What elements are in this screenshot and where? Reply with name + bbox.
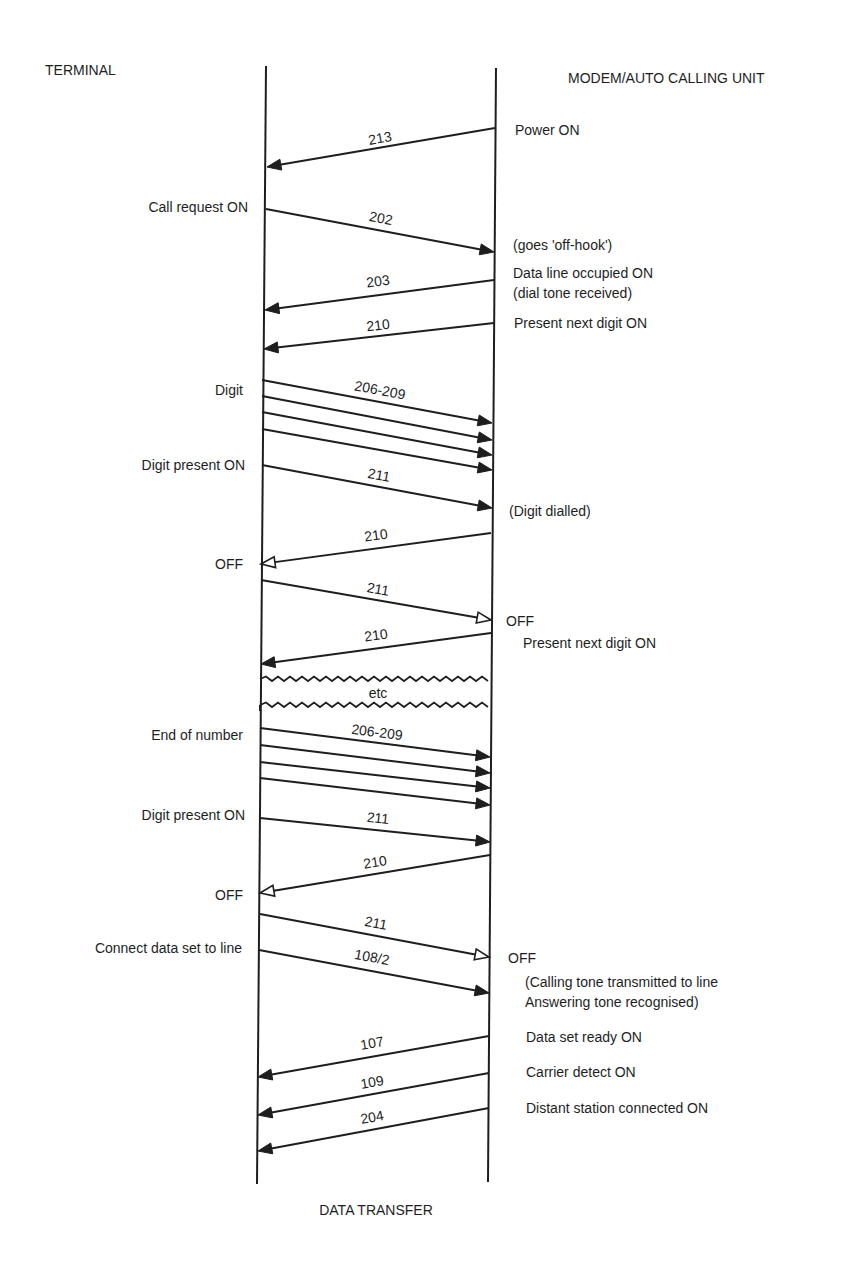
filled-arrowhead-icon [477, 415, 492, 426]
modem-event-label: OFF [506, 614, 534, 628]
terminal-event-label: Digit present ON [142, 808, 245, 822]
filled-arrowhead-icon [477, 432, 492, 443]
lifelines [257, 66, 496, 1184]
filled-arrowhead-icon [475, 750, 490, 761]
filled-arrowhead-icon [261, 657, 276, 668]
terminal-event-label: Digit present ON [142, 458, 245, 472]
modem-event-label: (dial tone received) [513, 286, 632, 300]
terminal-event-label: Connect data set to line [95, 941, 242, 955]
circuit-label: 211 [367, 466, 392, 484]
modem-event-label: Answering tone recognised) [525, 995, 699, 1009]
filled-arrowhead-icon [258, 1069, 273, 1080]
circuit-label: 213 [367, 129, 392, 147]
circuit-label: 202 [368, 209, 394, 227]
break-line-top [260, 677, 488, 682]
data-transfer-footer: DATA TRANSFER [319, 1203, 433, 1217]
terminal-event-label: OFF [215, 888, 243, 902]
filled-arrowhead-icon [477, 500, 492, 511]
modem-event-label: Present next digit ON [514, 316, 647, 330]
signal-arrow [260, 745, 490, 777]
filled-arrowhead-icon [258, 1107, 273, 1118]
modem-event-label: Distant station connected ON [526, 1101, 708, 1115]
circuit-label: 210 [362, 853, 387, 871]
filled-arrowhead-icon [264, 342, 279, 353]
terminal-event-label: Digit [215, 383, 243, 397]
terminal-event-label: OFF [215, 557, 243, 571]
terminal-event-label: Call request ON [148, 200, 248, 214]
circuit-label: 107 [359, 1034, 384, 1052]
filled-arrowhead-icon [475, 781, 490, 792]
circuit-label: 211 [364, 914, 389, 932]
circuit-label: 210 [363, 527, 388, 544]
filled-arrowhead-icon [267, 159, 282, 170]
circuit-label: 211 [366, 810, 390, 826]
filled-arrowhead-icon [477, 462, 492, 473]
signal-arrow [260, 762, 490, 792]
circuit-label: 203 [366, 273, 391, 290]
open-arrowhead-icon [476, 612, 491, 623]
open-arrowhead-icon [261, 557, 276, 568]
modem-header: MODEM/AUTO CALLING UNIT [568, 71, 765, 85]
signal-arrow [260, 778, 490, 809]
modem-event-label: (goes 'off-hook') [513, 238, 612, 252]
modem-lifeline [488, 68, 496, 1182]
terminal-event-label: End of number [151, 728, 243, 742]
modem-event-label: OFF [508, 951, 536, 965]
modem-event-label: (Digit dialled) [509, 504, 591, 518]
filled-arrowhead-icon [265, 303, 280, 314]
circuit-label: 210 [363, 627, 388, 644]
terminal-header: TERMINAL [45, 63, 116, 77]
filled-arrowhead-icon [258, 1143, 273, 1154]
circuit-label: 211 [366, 580, 390, 598]
modem-event-label: Carrier detect ON [526, 1065, 636, 1079]
etc-label: etc [369, 686, 388, 700]
modem-event-label: Present next digit ON [523, 636, 656, 650]
circuit-label: 210 [366, 317, 391, 334]
filled-arrowhead-icon [474, 985, 489, 996]
modem-event-label: (Calling tone transmitted to line [525, 975, 718, 989]
circuit-label: 109 [359, 1073, 384, 1091]
open-arrowhead-icon [260, 885, 275, 896]
filled-arrowhead-icon [475, 798, 490, 809]
filled-arrowhead-icon [479, 244, 494, 255]
circuit-label: 204 [359, 1108, 385, 1126]
open-arrowhead-icon [474, 949, 489, 960]
filled-arrowhead-icon [477, 447, 492, 458]
terminal-lifeline [257, 66, 266, 1184]
modem-event-label: Power ON [515, 123, 580, 137]
filled-arrowhead-icon [476, 835, 490, 846]
modem-event-label: Data line occupied ON [513, 266, 653, 280]
sequence-diagram [0, 0, 864, 1268]
filled-arrowhead-icon [475, 766, 490, 777]
break-line-bottom [260, 703, 488, 708]
modem-event-label: Data set ready ON [526, 1030, 642, 1044]
